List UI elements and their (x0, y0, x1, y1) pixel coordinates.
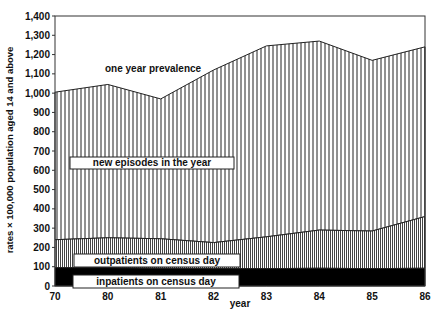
y-tick-label: 900 (33, 107, 50, 118)
x-tick-label: 70 (49, 291, 61, 302)
y-tick-label: 100 (33, 261, 50, 272)
y-tick-label: 1,300 (25, 30, 50, 41)
x-tick-label: 84 (314, 291, 326, 302)
y-tick-label: 400 (33, 203, 50, 214)
stacked-area-chart: 01002003004005006007008009001,0001,1001,… (0, 0, 436, 319)
y-axis-label: rates × 100,000 population aged 14 and a… (4, 47, 15, 254)
x-tick-label: 83 (261, 291, 273, 302)
x-tick-label: 81 (155, 291, 167, 302)
y-tick-label: 500 (33, 184, 50, 195)
label-one-year-prevalence: one year prevalence (105, 63, 202, 74)
y-tick-label: 800 (33, 126, 50, 137)
y-tick-label: 1,400 (25, 11, 50, 22)
x-tick-label: 85 (367, 291, 379, 302)
y-tick-label: 1,200 (25, 49, 50, 60)
label-new-episodes: new episodes in the year (70, 157, 234, 170)
label-outpatients: outpatients on census day (74, 254, 240, 267)
y-tick-label: 300 (33, 223, 50, 234)
svg-text:new episodes in the year: new episodes in the year (93, 157, 211, 168)
plot-area (55, 16, 425, 286)
svg-text:outpatients on census day: outpatients on census day (94, 255, 221, 266)
y-axis: 01002003004005006007008009001,0001,1001,… (25, 11, 55, 292)
y-tick-label: 1,100 (25, 68, 50, 79)
y-tick-label: 1,000 (25, 88, 50, 99)
x-tick-label: 80 (102, 291, 114, 302)
y-tick-label: 700 (33, 146, 50, 157)
y-tick-label: 600 (33, 165, 50, 176)
x-tick-label: 86 (419, 291, 431, 302)
y-tick-label: 200 (33, 242, 50, 253)
x-axis-label: year (230, 298, 251, 309)
svg-text:inpatients on census day: inpatients on census day (96, 276, 216, 287)
y-tick-label: 0 (44, 281, 50, 292)
label-inpatients: inpatients on census day (73, 275, 239, 288)
x-tick-label: 82 (208, 291, 220, 302)
